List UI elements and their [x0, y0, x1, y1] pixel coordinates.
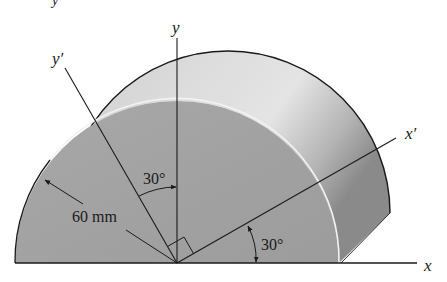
y-prime-axis-label: y′: [50, 49, 64, 68]
angle-label-y-yprime: 30°: [143, 170, 165, 187]
radius-label: 60 mm: [72, 208, 117, 225]
half-cylinder-diagram: y x y y′ x′ 60 mm 30° 30°: [0, 0, 447, 282]
y-axis-label: y: [170, 18, 180, 37]
angle-label-x-xprime: 30°: [261, 236, 283, 253]
x-axis-label: x: [423, 256, 432, 275]
cropped-top-label: y: [50, 0, 59, 8]
x-prime-axis-label: x′: [404, 124, 417, 143]
